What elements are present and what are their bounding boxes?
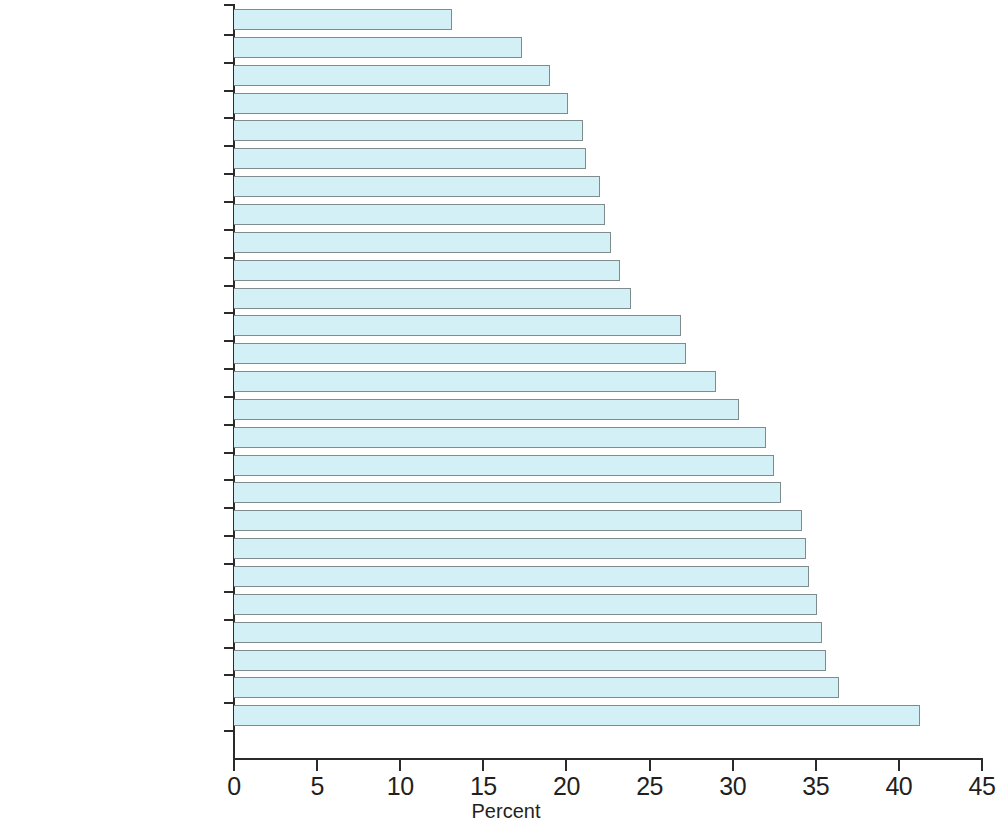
bar-row: Burkina Faso (234, 702, 982, 730)
category-axis-tick (224, 229, 234, 231)
value-axis-tick (649, 760, 651, 771)
bar-row: Mozambique (234, 117, 982, 145)
value-axis-tick (981, 760, 983, 771)
value-axis-tick (399, 760, 401, 771)
bar (234, 343, 686, 364)
category-axis-tick (224, 90, 234, 92)
value-axis-tick-label: 45 (969, 772, 996, 800)
category-axis-tick (224, 145, 234, 147)
value-axis-tick-label: 10 (387, 772, 414, 800)
bar-row: Mali (234, 368, 982, 396)
bar (234, 288, 631, 309)
category-axis-tick (224, 535, 234, 537)
category-axis-tick (224, 285, 234, 287)
bar (234, 120, 583, 141)
bar-row: Niger (234, 285, 982, 313)
bar (234, 510, 802, 531)
category-axis-tick (224, 730, 234, 732)
bar-row: Congo, Dem. Rep. (234, 396, 982, 424)
category-axis-tick (224, 117, 234, 119)
category-axis-tick (224, 201, 234, 203)
bar-row: Côte d'Ivoire (234, 173, 982, 201)
value-axis-tick (815, 760, 817, 771)
plot-area: TanzaniaCameroonZimbabweMalawiMozambique… (234, 6, 982, 758)
value-axis-tick-label: 0 (227, 772, 240, 800)
bar-row: Congo, Rep. (234, 257, 982, 285)
value-axis-tick (316, 760, 318, 771)
value-axis-tick-label: 5 (310, 772, 323, 800)
value-axis-line (233, 758, 983, 760)
category-axis-tick (224, 396, 234, 398)
bar (234, 650, 826, 671)
bar-row: Malawi (234, 90, 982, 118)
category-axis-tick (224, 368, 234, 370)
bar-row: Algeria (234, 145, 982, 173)
bar (234, 455, 774, 476)
bar (234, 93, 568, 114)
bar (234, 65, 550, 86)
bar (234, 705, 920, 726)
category-axis-tick (224, 312, 234, 314)
category-axis-tick (224, 62, 234, 64)
value-axis-tick (482, 760, 484, 771)
category-axis-tick (224, 619, 234, 621)
value-axis-tick (233, 760, 235, 771)
bar (234, 566, 809, 587)
bar-row: Senegal (234, 507, 982, 535)
bar (234, 538, 806, 559)
category-axis-tick (224, 591, 234, 593)
bar (234, 622, 822, 643)
bar-row: Central African Republic (234, 312, 982, 340)
value-axis-tick-label: 20 (553, 772, 580, 800)
value-axis-tick-label: 15 (470, 772, 497, 800)
value-axis-tick-label: 30 (719, 772, 746, 800)
bar-row: Ghana (234, 229, 982, 257)
value-axis-tick-label: 25 (636, 772, 663, 800)
bar-row: Nigeria (234, 674, 982, 702)
bar-row: Benin (234, 591, 982, 619)
bar (234, 232, 611, 253)
bar (234, 37, 522, 58)
category-axis-tick (224, 674, 234, 676)
bar-row: Mauritania (234, 619, 982, 647)
bar (234, 9, 452, 30)
category-axis-tick (224, 563, 234, 565)
bar-row: Namibia (234, 424, 982, 452)
category-axis-tick (224, 702, 234, 704)
bar (234, 315, 681, 336)
bar-row: Lesotho (234, 647, 982, 675)
category-axis-tick (224, 340, 234, 342)
category-axis-tick (224, 257, 234, 259)
category-axis-tick (224, 173, 234, 175)
bar-row: Guinea (234, 563, 982, 591)
bar-chart: TanzaniaCameroonZimbabweMalawiMozambique… (0, 0, 996, 827)
bar (234, 371, 716, 392)
bar (234, 594, 817, 615)
bar (234, 176, 600, 197)
value-axis-tick (565, 760, 567, 771)
x-axis-title: Percent (0, 799, 996, 823)
bar-row: Tanzania (234, 6, 982, 34)
bar (234, 427, 766, 448)
value-axis-tick-label: 40 (885, 772, 912, 800)
bar (234, 399, 739, 420)
value-axis-tick (898, 760, 900, 771)
category-axis-tick (224, 452, 234, 454)
category-axis-tick (224, 479, 234, 481)
value-axis-tick (732, 760, 734, 771)
bar-row: Zambia (234, 452, 982, 480)
bar-row: Zimbabwe (234, 62, 982, 90)
bar-row: Cameroon (234, 34, 982, 62)
category-axis-tick (224, 507, 234, 509)
category-axis-tick (224, 647, 234, 649)
bar-row: Egypt, Arab Rep. (234, 340, 982, 368)
category-axis-tick (224, 424, 234, 426)
bar (234, 482, 781, 503)
bar-row: Djibouti (234, 201, 982, 229)
bar-row: Botswana (234, 479, 982, 507)
bar (234, 148, 586, 169)
bar (234, 260, 620, 281)
bar (234, 677, 839, 698)
value-axis-tick-label: 35 (802, 772, 829, 800)
bar (234, 204, 605, 225)
